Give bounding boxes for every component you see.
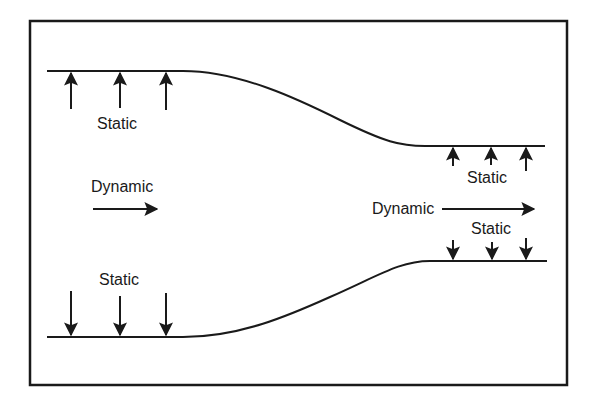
lower-right-static-arrows (453, 238, 526, 259)
lower-left-static-label: Static (99, 272, 139, 288)
nozzle-diagram (0, 0, 596, 396)
lower-right-static-label: Static (471, 221, 511, 237)
upper-left-static-arrows (71, 73, 166, 110)
upper-left-static-label: Static (97, 116, 137, 132)
figure-frame (30, 21, 567, 385)
lower-left-static-arrows (71, 291, 166, 335)
upper-right-static-label: Static (467, 170, 507, 186)
upper-right-static-arrows (453, 148, 526, 171)
left-dynamic-label: Dynamic (91, 179, 153, 195)
right-dynamic-label: Dynamic (372, 201, 434, 217)
upper-wall (47, 71, 545, 146)
